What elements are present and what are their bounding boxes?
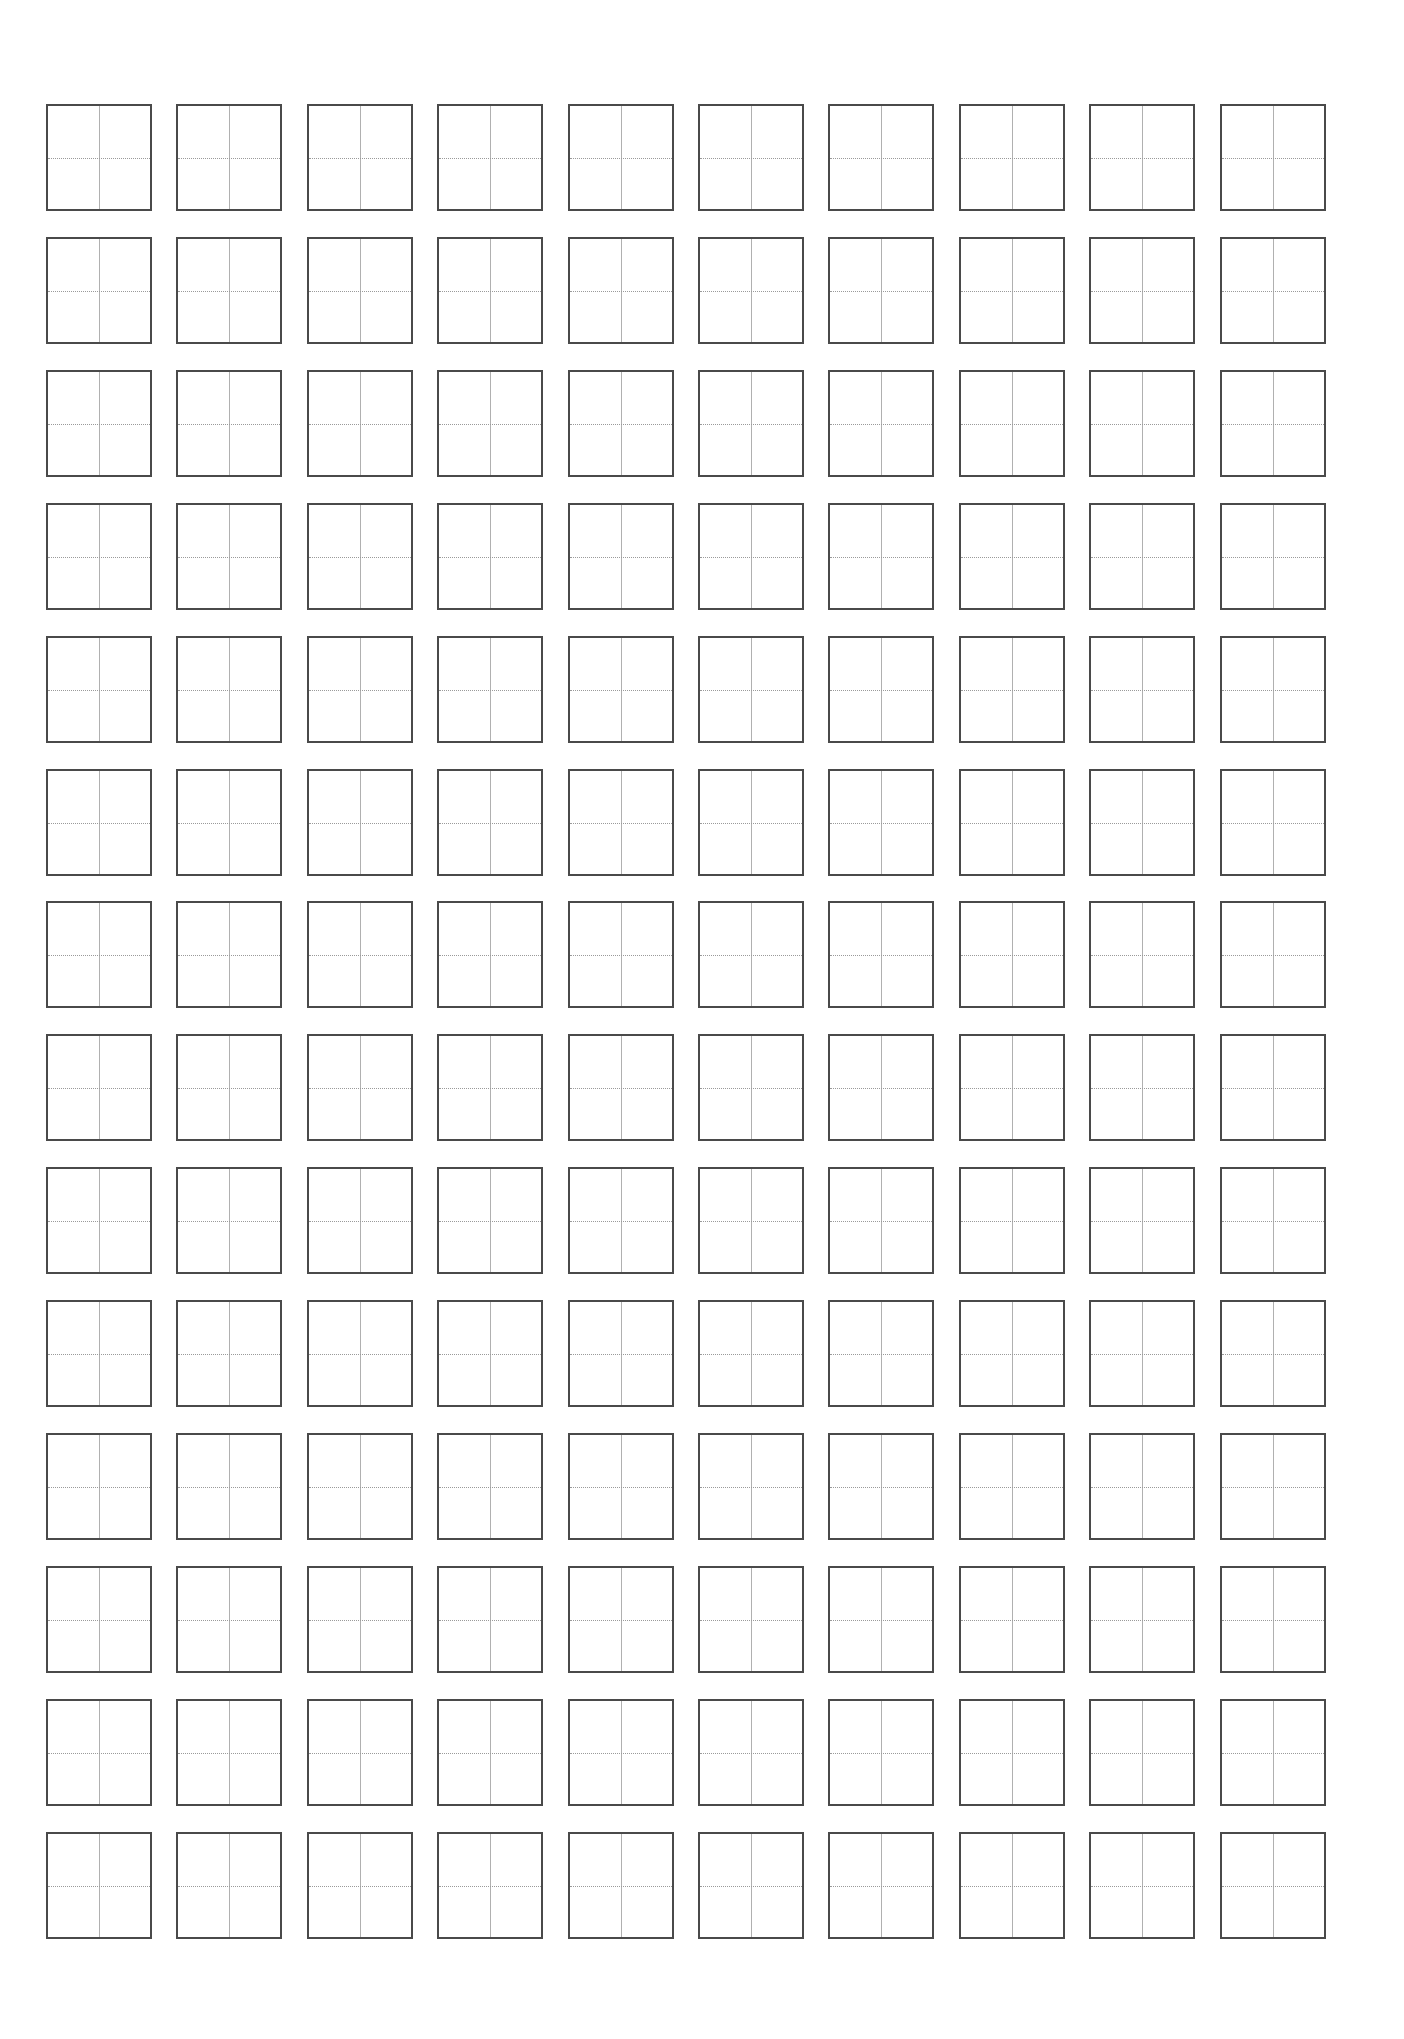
- writing-cell: [307, 901, 413, 1008]
- horizontal-guide-line: [570, 1487, 672, 1488]
- horizontal-guide-line: [309, 158, 411, 159]
- horizontal-guide-line: [570, 158, 672, 159]
- practice-sheet: [0, 0, 1404, 2039]
- writing-cell: [698, 1300, 804, 1407]
- writing-cell: [437, 1566, 543, 1673]
- horizontal-guide-line: [48, 557, 150, 558]
- horizontal-guide-line: [830, 690, 932, 691]
- horizontal-guide-line: [1091, 1620, 1193, 1621]
- writing-cell: [307, 1433, 413, 1540]
- writing-cell: [46, 1300, 152, 1407]
- horizontal-guide-line: [830, 1221, 932, 1222]
- horizontal-guide-line: [309, 1620, 411, 1621]
- writing-cell: [437, 1832, 543, 1939]
- writing-cell: [437, 769, 543, 876]
- writing-cell: [1089, 1566, 1195, 1673]
- writing-cell: [46, 1566, 152, 1673]
- horizontal-guide-line: [1222, 291, 1324, 292]
- horizontal-guide-line: [830, 1886, 932, 1887]
- writing-cell: [437, 1167, 543, 1274]
- writing-cell: [828, 1433, 934, 1540]
- horizontal-guide-line: [961, 1487, 1063, 1488]
- horizontal-guide-line: [961, 1620, 1063, 1621]
- horizontal-guide-line: [570, 1886, 672, 1887]
- horizontal-guide-line: [439, 690, 541, 691]
- horizontal-guide-line: [700, 424, 802, 425]
- writing-cell: [1220, 370, 1326, 477]
- writing-cell: [828, 1034, 934, 1141]
- horizontal-guide-line: [1091, 690, 1193, 691]
- horizontal-guide-line: [439, 424, 541, 425]
- writing-cell: [1089, 1433, 1195, 1540]
- horizontal-guide-line: [178, 1753, 280, 1754]
- writing-cell: [568, 1433, 674, 1540]
- writing-cell: [698, 503, 804, 610]
- horizontal-guide-line: [48, 158, 150, 159]
- writing-cell: [1220, 1433, 1326, 1540]
- writing-cell: [46, 1699, 152, 1806]
- horizontal-guide-line: [309, 1221, 411, 1222]
- writing-cell: [959, 370, 1065, 477]
- writing-cell: [176, 370, 282, 477]
- writing-cell: [568, 769, 674, 876]
- horizontal-guide-line: [830, 557, 932, 558]
- writing-cell: [1089, 1034, 1195, 1141]
- horizontal-guide-line: [570, 1221, 672, 1222]
- horizontal-guide-line: [961, 1354, 1063, 1355]
- writing-cell: [698, 370, 804, 477]
- writing-cell: [1089, 1832, 1195, 1939]
- horizontal-guide-line: [570, 557, 672, 558]
- horizontal-guide-line: [1222, 1354, 1324, 1355]
- writing-cell: [698, 1832, 804, 1939]
- horizontal-guide-line: [1091, 158, 1193, 159]
- horizontal-guide-line: [700, 557, 802, 558]
- horizontal-guide-line: [48, 1487, 150, 1488]
- writing-cell: [307, 237, 413, 344]
- horizontal-guide-line: [439, 291, 541, 292]
- writing-cell: [568, 901, 674, 1008]
- horizontal-guide-line: [830, 1753, 932, 1754]
- writing-cell: [176, 901, 282, 1008]
- writing-cell: [1089, 104, 1195, 211]
- horizontal-guide-line: [178, 1886, 280, 1887]
- horizontal-guide-line: [1091, 955, 1193, 956]
- horizontal-guide-line: [48, 1088, 150, 1089]
- writing-cell: [698, 1433, 804, 1540]
- writing-cell: [828, 901, 934, 1008]
- writing-cell: [176, 503, 282, 610]
- writing-cell: [1220, 1566, 1326, 1673]
- horizontal-guide-line: [961, 1088, 1063, 1089]
- horizontal-guide-line: [570, 1620, 672, 1621]
- writing-cell: [828, 1699, 934, 1806]
- writing-cell: [176, 1167, 282, 1274]
- horizontal-guide-line: [700, 158, 802, 159]
- horizontal-guide-line: [961, 557, 1063, 558]
- writing-cell: [568, 1832, 674, 1939]
- horizontal-guide-line: [309, 690, 411, 691]
- horizontal-guide-line: [1091, 1886, 1193, 1887]
- horizontal-guide-line: [700, 823, 802, 824]
- writing-cell: [437, 370, 543, 477]
- writing-cell: [307, 503, 413, 610]
- writing-cell: [307, 769, 413, 876]
- horizontal-guide-line: [309, 955, 411, 956]
- writing-cell: [828, 636, 934, 743]
- writing-cell: [176, 1034, 282, 1141]
- horizontal-guide-line: [309, 1088, 411, 1089]
- horizontal-guide-line: [48, 823, 150, 824]
- writing-cell: [698, 237, 804, 344]
- horizontal-guide-line: [309, 823, 411, 824]
- writing-cell: [959, 1167, 1065, 1274]
- writing-cell: [437, 1034, 543, 1141]
- writing-cell: [828, 1832, 934, 1939]
- writing-cell: [176, 1566, 282, 1673]
- writing-cell: [1089, 901, 1195, 1008]
- horizontal-guide-line: [48, 424, 150, 425]
- horizontal-guide-line: [1222, 424, 1324, 425]
- horizontal-guide-line: [48, 291, 150, 292]
- horizontal-guide-line: [700, 1354, 802, 1355]
- horizontal-guide-line: [309, 1886, 411, 1887]
- writing-cell: [176, 104, 282, 211]
- writing-cell: [959, 769, 1065, 876]
- writing-cell: [698, 769, 804, 876]
